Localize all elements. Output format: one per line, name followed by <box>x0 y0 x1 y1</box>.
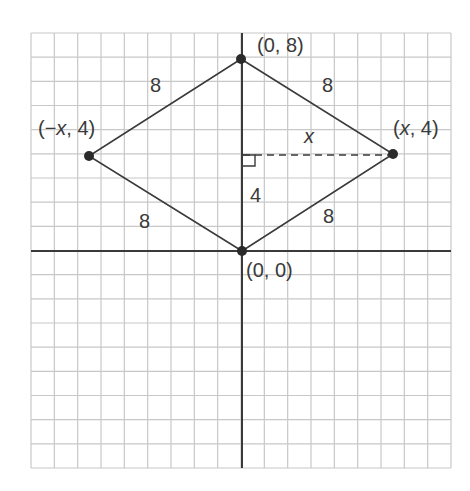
side-label-bottom-left: 8 <box>139 210 150 232</box>
label-right-vertex: (x, 4) <box>393 117 439 139</box>
coordinate-diagram: (0, 8) (x, 4) (0, 0) (−x, 4) 8 8 8 8 4 x <box>0 0 470 491</box>
label-left-vertex: (−x, 4) <box>38 117 95 139</box>
side-label-top-left: 8 <box>150 74 161 96</box>
vertex-bottom <box>237 246 247 256</box>
half-width-label: x <box>303 125 315 147</box>
vertex-right <box>388 149 398 159</box>
side-label-bottom-right: 8 <box>323 205 334 227</box>
vertex-top <box>236 54 246 64</box>
label-top-vertex: (0, 8) <box>257 34 304 56</box>
right-angle-marker <box>243 155 255 166</box>
height-label: 4 <box>250 184 261 206</box>
side-label-top-right: 8 <box>322 74 333 96</box>
vertex-left <box>84 151 94 161</box>
label-bottom-vertex: (0, 0) <box>246 259 293 281</box>
